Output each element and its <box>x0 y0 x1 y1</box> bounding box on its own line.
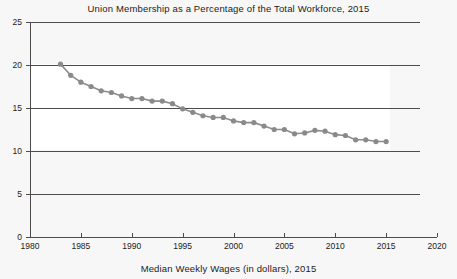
data-point-2005 <box>282 127 287 132</box>
data-point-1989 <box>119 93 124 98</box>
data-point-2006 <box>292 131 297 136</box>
data-point-2009 <box>322 129 327 134</box>
data-point-2011 <box>343 133 348 138</box>
data-point-2008 <box>312 128 317 133</box>
data-point-1998 <box>211 115 216 120</box>
data-point-1986 <box>88 84 93 89</box>
data-point-1983 <box>58 62 63 67</box>
data-point-1995 <box>180 106 185 111</box>
data-point-1984 <box>68 73 73 78</box>
data-point-1992 <box>150 99 155 104</box>
chart-figure: Union Membership as a Percentage of the … <box>0 0 457 279</box>
data-point-1990 <box>129 96 134 101</box>
data-point-2010 <box>333 132 338 137</box>
series-line <box>61 64 387 141</box>
data-point-2014 <box>373 139 378 144</box>
data-point-2002 <box>251 120 256 125</box>
data-point-1997 <box>200 113 205 118</box>
data-point-1987 <box>99 88 104 93</box>
data-point-2012 <box>353 137 358 142</box>
data-series-layer <box>0 0 457 279</box>
data-point-2003 <box>261 123 266 128</box>
series-markers <box>58 62 389 145</box>
chart-caption: Median Weekly Wages (in dollars), 2015 <box>0 263 457 274</box>
data-point-1988 <box>109 90 114 95</box>
data-point-1999 <box>221 115 226 120</box>
data-point-2013 <box>363 137 368 142</box>
data-point-2004 <box>272 127 277 132</box>
data-point-1996 <box>190 110 195 115</box>
data-point-1994 <box>170 101 175 106</box>
data-point-1993 <box>160 99 165 104</box>
data-point-1985 <box>78 80 83 85</box>
data-point-1991 <box>139 96 144 101</box>
data-point-2007 <box>302 130 307 135</box>
data-point-2001 <box>241 120 246 125</box>
data-point-2015 <box>384 139 389 144</box>
data-point-2000 <box>231 118 236 123</box>
